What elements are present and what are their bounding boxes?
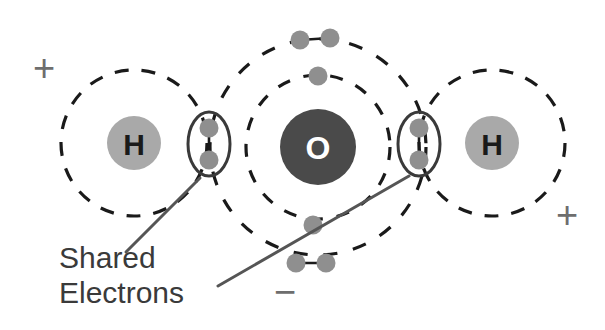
electron-shared-left-lower: [200, 151, 219, 170]
electron-shared-right-lower: [410, 151, 429, 170]
electron-inner-top: [309, 67, 328, 86]
electron-lone-bottom-left: [287, 254, 306, 273]
leader-line-group: [126, 176, 409, 286]
atom-label-oxygen-center: O: [306, 130, 331, 166]
electron-shared-left-upper: [200, 119, 219, 138]
charge-positive-left: +: [33, 47, 55, 89]
caption-line-1: Shared: [59, 241, 156, 274]
shared-electrons-caption: Shared Electrons: [59, 241, 184, 309]
water-molecule-diagram: H O H: [0, 0, 605, 330]
molecule-canvas: H O H: [0, 0, 605, 330]
electron-shared-right-upper: [410, 119, 429, 138]
charge-positive-right: +: [556, 194, 578, 236]
atom-group: H O H: [107, 109, 519, 185]
electron-lone-bottom-right: [317, 254, 336, 273]
electron-lone-top-left: [291, 31, 310, 50]
atom-label-hydrogen-right: H: [481, 128, 503, 161]
caption-line-2: Electrons: [59, 276, 184, 309]
leader-line-right: [218, 176, 409, 286]
electron-lone-top-right: [321, 29, 340, 48]
atom-label-hydrogen-left: H: [123, 128, 145, 161]
charge-negative: −: [274, 271, 296, 313]
